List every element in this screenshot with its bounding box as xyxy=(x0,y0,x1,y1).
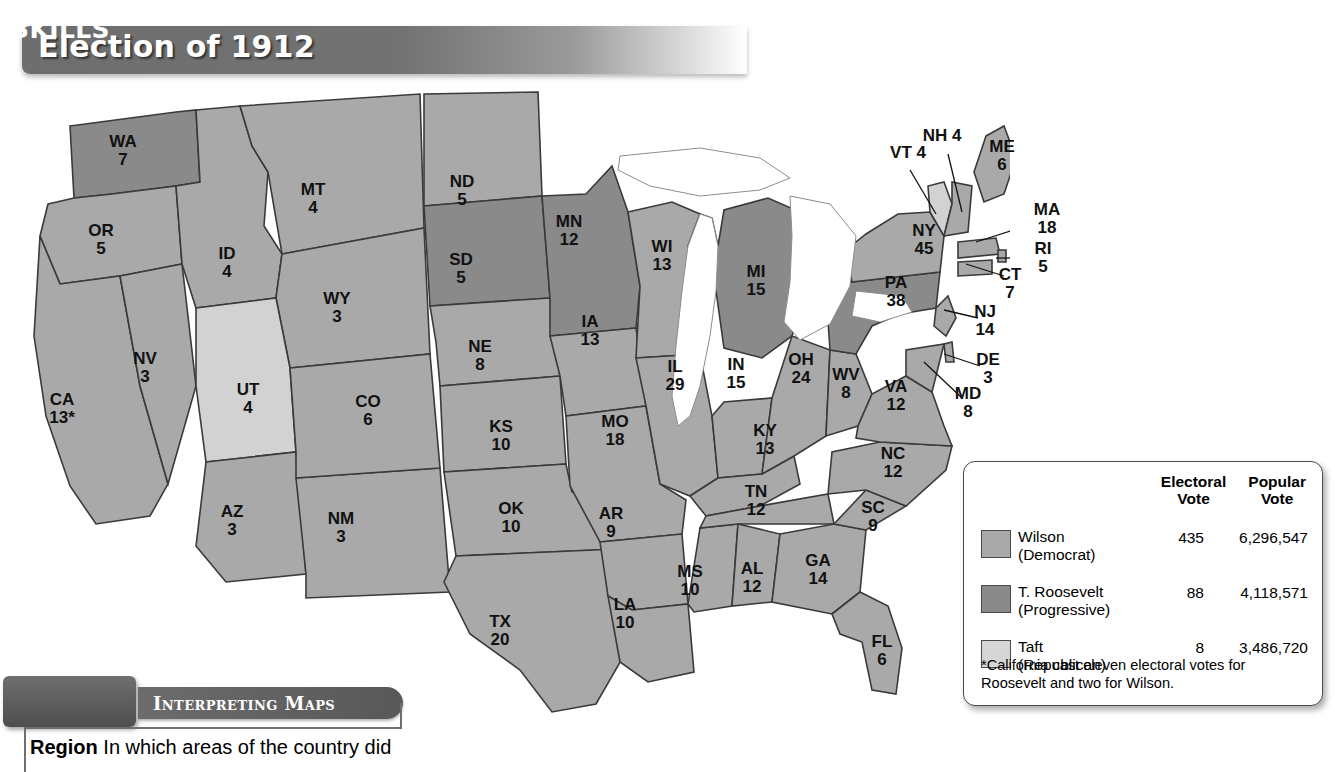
state-abbr: RI xyxy=(1035,240,1052,258)
legend-popular-vote: 3,486,720 xyxy=(1204,639,1308,657)
state-co xyxy=(290,354,440,478)
geography-skills-line2: SKILLS xyxy=(11,17,110,42)
state-fl xyxy=(832,592,902,694)
legend-candidate-party: (Democrat) xyxy=(1018,546,1146,564)
legend-header-popular-l2: Vote xyxy=(1248,490,1306,507)
legend-box: Electoral Vote Popular Vote Wilson(Democ… xyxy=(963,461,1323,706)
legend-header-popular: Popular Vote xyxy=(1248,473,1306,508)
state-ct xyxy=(958,260,992,276)
legend-candidate: T. Roosevelt(Progressive) xyxy=(1018,583,1146,619)
question-label: Region xyxy=(30,736,98,758)
state-me xyxy=(974,126,1010,202)
state-nm xyxy=(296,468,450,598)
state-la xyxy=(608,596,694,682)
election-map: WA7OR5CA13*NV3ID4MT4WY3UT4AZ3NM3CO6ND5SD… xyxy=(0,86,1010,726)
state-az xyxy=(196,452,306,582)
question-rule-vertical xyxy=(400,703,402,729)
legend-popular-vote: 4,118,571 xyxy=(1204,584,1308,602)
state-ri xyxy=(998,250,1006,262)
wilson-swatch xyxy=(981,530,1011,558)
legend-candidate: Wilson(Democrat) xyxy=(1018,528,1146,564)
legend-electoral-vote: 88 xyxy=(1146,584,1204,602)
us-map-svg xyxy=(0,86,1010,726)
state-ks xyxy=(440,376,566,472)
state-label-ri: RI5 xyxy=(1035,240,1052,275)
question-text: Region In which areas of the country did xyxy=(30,736,391,759)
legend-electoral-vote: 8 xyxy=(1146,639,1204,657)
state-mt xyxy=(240,94,424,254)
state-electoral-votes: 18 xyxy=(1034,219,1060,237)
legend-row: Wilson(Democrat)4356,296,547 xyxy=(981,528,1308,574)
state-mn xyxy=(542,166,640,336)
state-shapes-group xyxy=(34,92,1010,712)
legend-header-electoral-l1: Electoral xyxy=(1161,473,1226,490)
legend-header-popular-l1: Popular xyxy=(1248,473,1306,490)
interpreting-maps-label: Interpreting Maps xyxy=(153,693,335,714)
legend-footnote: *California cast eleven electoral votes … xyxy=(981,657,1310,693)
lake-superior xyxy=(618,148,790,196)
geography-skills-badge xyxy=(3,676,136,727)
state-nc xyxy=(828,442,952,506)
question-rule-left xyxy=(24,727,26,772)
state-ut xyxy=(196,298,296,462)
legend-electoral-vote: 435 xyxy=(1146,529,1204,547)
state-electoral-votes: 5 xyxy=(1035,258,1052,276)
legend-candidate-name: Taft xyxy=(1018,638,1146,656)
state-va xyxy=(856,376,952,446)
legend-candidate-party: (Progressive) xyxy=(1018,601,1146,619)
legend-header-electoral-l2: Vote xyxy=(1161,490,1226,507)
legend-row: T. Roosevelt(Progressive)884,118,571 xyxy=(981,583,1308,629)
state-ny xyxy=(846,212,944,282)
legend-candidate-name: Wilson xyxy=(1018,528,1146,546)
state-ms xyxy=(688,524,738,612)
state-abbr: MA xyxy=(1034,201,1060,219)
state-de xyxy=(944,342,954,362)
question-body: In which areas of the country did xyxy=(103,736,391,758)
legend-header: Electoral Vote Popular Vote xyxy=(1161,473,1306,508)
state-label-ma: MA18 xyxy=(1034,201,1060,236)
state-sd xyxy=(424,196,550,306)
state-nd xyxy=(424,92,542,206)
state-ia xyxy=(550,328,646,416)
legend-header-electoral: Electoral Vote xyxy=(1161,473,1226,508)
state-oh xyxy=(762,336,830,474)
legend-candidate-name: T. Roosevelt xyxy=(1018,583,1146,601)
question-rule-horizontal xyxy=(24,727,402,729)
roosevelt-swatch xyxy=(981,585,1011,613)
state-ne xyxy=(430,298,560,386)
legend-popular-vote: 6,296,547 xyxy=(1204,529,1308,547)
